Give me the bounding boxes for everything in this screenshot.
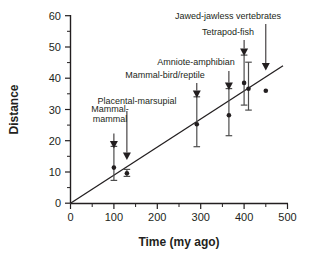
annotation-label-mammal-mammal-line2: mammal [93, 114, 128, 124]
arrow-tetrapod-fish [240, 40, 248, 56]
annotation-arrows [110, 24, 270, 160]
arrow-mammal-bird-reptile [193, 83, 201, 98]
scatter-chart-figure: 60 50 40 30 20 10 0 0 100 200 300 400 50… [0, 0, 318, 259]
annotation-label-tetrapod-fish: Tetrapod-fish [202, 27, 254, 37]
annotation-label-amniote-amphibian: Amniote-amphibian [157, 57, 235, 67]
data-point-group [226, 89, 233, 136]
data-point-group [124, 169, 131, 176]
regression-line [71, 66, 284, 204]
chart-canvas: 60 50 40 30 20 10 0 0 100 200 300 400 50… [0, 0, 318, 259]
y-tick-label: 30 [49, 104, 61, 116]
x-tick-label: 200 [148, 211, 166, 223]
annotation-label-jawed-jawless: Jawed-jawless vertebrates [175, 11, 282, 21]
annotation-label-placental-marsupial: Placental-marsupial [97, 96, 176, 106]
y-tick-label: 40 [49, 72, 61, 84]
y-tick-label: 10 [49, 166, 61, 178]
data-point [227, 113, 232, 118]
data-point [195, 122, 200, 127]
data-point [246, 87, 251, 92]
data-point-group [111, 146, 118, 180]
data-point [112, 165, 117, 170]
x-tick-label: 500 [278, 211, 296, 223]
x-tick-label: 400 [235, 211, 253, 223]
y-axis-tick-labels: 60 50 40 30 20 10 0 [49, 10, 61, 210]
y-tick-label: 60 [49, 10, 61, 22]
data-point [264, 88, 269, 93]
annotation-label-mammal-bird-reptile: Mammal-bird/reptile [125, 70, 205, 80]
y-tick-label: 0 [55, 197, 61, 209]
data-point-group [194, 97, 201, 147]
arrow-jawed-jawless [262, 24, 270, 71]
y-axis-title: Distance [7, 84, 21, 134]
y-tick-label: 20 [49, 135, 61, 147]
x-axis-title: Time (my ago) [138, 235, 219, 249]
x-tick-label: 100 [105, 211, 123, 223]
y-tick-label: 50 [49, 41, 61, 53]
y-axis-major-ticks [65, 16, 71, 204]
annotation-labels: Mammal- mammal Placental-marsupial Mamma… [91, 11, 281, 124]
x-tick-label: 0 [67, 211, 73, 223]
arrow-amniote-amphibian [225, 71, 233, 90]
x-axis-tick-labels: 0 100 200 300 400 500 [67, 211, 296, 223]
data-point [242, 81, 247, 86]
x-tick-label: 300 [192, 211, 210, 223]
data-point [125, 171, 130, 176]
